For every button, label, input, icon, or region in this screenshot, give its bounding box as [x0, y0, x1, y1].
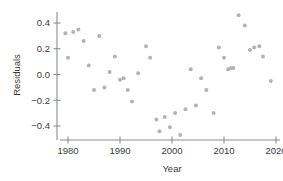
data-point	[130, 100, 134, 104]
x-tick-label: 1980	[57, 145, 78, 156]
data-point	[178, 133, 182, 137]
data-point	[189, 67, 193, 71]
data-point	[136, 71, 140, 75]
data-point-group	[63, 13, 272, 137]
y-tick-label: 0.4	[37, 17, 50, 28]
y-axis-title: Residuals	[11, 54, 22, 96]
y-tick-label: 0.0	[37, 69, 50, 80]
data-point	[158, 129, 162, 133]
data-point	[184, 107, 188, 111]
data-point	[231, 66, 235, 70]
data-point	[194, 103, 198, 107]
data-point	[82, 39, 86, 43]
data-point	[66, 56, 70, 60]
data-point	[154, 118, 158, 122]
data-point	[87, 63, 91, 67]
data-point	[168, 125, 172, 129]
data-point	[92, 88, 96, 92]
data-point	[76, 27, 80, 31]
x-tick-label: 1990	[109, 145, 130, 156]
data-point	[102, 85, 106, 89]
data-point	[173, 111, 177, 115]
data-point	[199, 76, 203, 80]
data-point	[252, 45, 256, 49]
data-point	[212, 111, 216, 115]
x-axis-title: Year	[162, 163, 181, 174]
data-point	[217, 45, 221, 49]
data-point	[163, 115, 167, 119]
data-point	[108, 70, 112, 74]
data-point	[257, 44, 261, 48]
data-point	[243, 24, 247, 28]
data-point	[63, 31, 67, 35]
plot-canvas: −0.4−0.20.00.20.419801990200020102020 Re…	[0, 0, 283, 181]
axes-group	[54, 12, 281, 144]
data-point	[113, 54, 117, 58]
scatter-plot-figure: −0.4−0.20.00.20.419801990200020102020 Re…	[0, 0, 283, 181]
data-point	[126, 88, 130, 92]
x-tick-label: 2000	[161, 145, 182, 156]
axis-labels-group: −0.4−0.20.00.20.419801990200020102020	[31, 17, 283, 156]
y-tick-label: −0.4	[31, 120, 50, 131]
y-tick-label: −0.2	[31, 95, 50, 106]
data-point	[269, 79, 273, 83]
data-point	[122, 76, 126, 80]
data-point	[237, 13, 241, 17]
data-point	[148, 56, 152, 60]
x-tick-label: 2010	[213, 145, 234, 156]
y-tick-label: 0.2	[37, 43, 50, 54]
data-point	[222, 56, 226, 60]
data-point	[144, 44, 148, 48]
data-point	[118, 78, 122, 82]
data-point	[248, 48, 252, 52]
data-point	[71, 30, 75, 34]
data-point	[97, 34, 101, 38]
x-tick-label: 2020	[265, 145, 283, 156]
data-point	[204, 88, 208, 92]
data-point	[261, 54, 265, 58]
